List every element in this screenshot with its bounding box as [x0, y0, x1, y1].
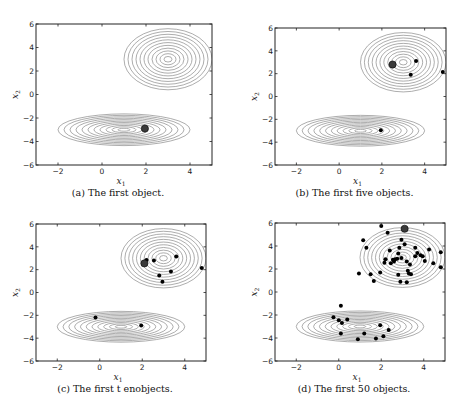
y-tick-label: −6: [262, 161, 273, 170]
data-point: [399, 238, 403, 242]
y-tick-label: 4: [29, 43, 34, 52]
data-point: [396, 251, 400, 255]
contour-ellipse: [57, 311, 185, 342]
subplot-caption: (a) The first object.: [72, 187, 164, 198]
contour-lines: [296, 33, 446, 147]
x-axis-label: x1: [353, 372, 362, 383]
data-point: [399, 256, 403, 260]
contour-ellipse: [118, 128, 130, 131]
data-point: [423, 259, 427, 263]
data-point: [364, 246, 368, 250]
data-point: [387, 328, 391, 332]
contour-lines: [57, 229, 206, 343]
data-point: [439, 265, 443, 269]
highlighted-point: [389, 61, 396, 68]
data-point: [408, 262, 412, 266]
contour-ellipse: [124, 29, 212, 90]
y-tick-label: 6: [268, 24, 273, 33]
data-point: [392, 260, 396, 264]
data-point: [414, 59, 418, 63]
contour-ellipse: [133, 237, 195, 280]
contour-ellipse: [372, 41, 434, 84]
y-tick-label: −2: [262, 311, 273, 320]
x-axis-label: x1: [114, 372, 123, 383]
y-tick-label: −4: [23, 137, 34, 146]
contour-ellipse: [348, 324, 371, 330]
data-point: [337, 318, 341, 322]
contour-ellipse: [58, 114, 190, 146]
subplot-c: −2024−6−4−20246x1x2(c) The first t enobj…: [10, 220, 206, 394]
y-tick-label: −2: [23, 311, 34, 320]
y-tick-label: 0: [29, 288, 34, 297]
contour-ellipse: [308, 118, 413, 143]
data-point: [339, 331, 343, 335]
contour-ellipse: [109, 324, 132, 330]
contour-ellipse: [156, 253, 171, 264]
contour-ellipse: [132, 34, 204, 84]
x-tick-label: −2: [291, 167, 302, 176]
y-tick-label: −6: [262, 357, 273, 366]
contour-ellipse: [164, 56, 172, 62]
data-point: [356, 337, 360, 341]
data-point: [340, 321, 344, 325]
contour-ellipse: [354, 325, 366, 328]
y-tick-label: 0: [268, 92, 273, 101]
x-tick-label: 4: [422, 167, 427, 176]
contour-ellipse: [380, 46, 427, 78]
y-tick-label: 0: [29, 90, 34, 99]
data-point: [94, 316, 98, 320]
y-tick-label: 6: [29, 20, 34, 29]
data-point: [396, 273, 400, 277]
contour-ellipse: [148, 45, 188, 73]
contour-ellipse: [75, 316, 168, 338]
y-axis-label: x2: [10, 288, 21, 297]
y-tick-label: 4: [29, 243, 34, 252]
data-point: [405, 280, 409, 284]
contour-ellipse: [136, 37, 200, 81]
data-point: [381, 334, 385, 338]
data-point: [157, 273, 161, 277]
data-point: [374, 337, 378, 341]
y-tick-label: −6: [23, 161, 34, 170]
subplot-caption: (d) The first 50 objects.: [298, 383, 411, 394]
data-point: [388, 249, 392, 253]
contour-ellipse: [144, 43, 192, 76]
data-point: [406, 269, 410, 273]
data-point: [431, 261, 435, 265]
y-tick-label: 4: [268, 47, 273, 56]
y-tick-label: 6: [29, 220, 34, 229]
subplot-b: −2024−6−4−20246x1x2(b) The first five ob…: [249, 24, 446, 198]
contour-ellipse: [368, 38, 438, 87]
contour-ellipse: [70, 117, 178, 143]
x-tick-label: 4: [188, 167, 193, 176]
contour-ellipse: [361, 33, 447, 92]
data-point: [372, 279, 376, 283]
y-tick-label: 0: [268, 288, 273, 297]
x-tick-label: 4: [182, 363, 187, 372]
x-tick-label: 2: [379, 363, 384, 372]
figure-grid: −2024−6−4−20246x1x2(a) The first object.…: [0, 0, 465, 416]
contour-ellipse: [148, 247, 179, 269]
contour-ellipse: [399, 60, 407, 65]
data-point: [331, 315, 335, 319]
y-tick-label: −2: [262, 115, 273, 124]
subplot-caption: (b) The first five objects.: [296, 187, 414, 198]
data-point: [439, 250, 443, 254]
data-point: [382, 261, 386, 265]
x-tick-label: −2: [52, 363, 63, 372]
contour-ellipse: [115, 325, 127, 328]
contour-ellipse: [160, 256, 168, 261]
y-tick-label: 2: [29, 67, 34, 76]
contour-ellipse: [76, 118, 172, 141]
contour-ellipse: [152, 48, 184, 70]
data-point: [369, 272, 373, 276]
contour-ellipse: [69, 314, 173, 339]
data-point: [345, 318, 349, 322]
contour-ellipse: [129, 234, 199, 283]
y-axis-label: x2: [249, 92, 260, 101]
y-tick-label: 2: [268, 265, 273, 274]
highlighted-point: [401, 225, 408, 232]
contour-ellipse: [160, 54, 176, 65]
data-point: [339, 304, 343, 308]
data-point: [403, 242, 407, 246]
